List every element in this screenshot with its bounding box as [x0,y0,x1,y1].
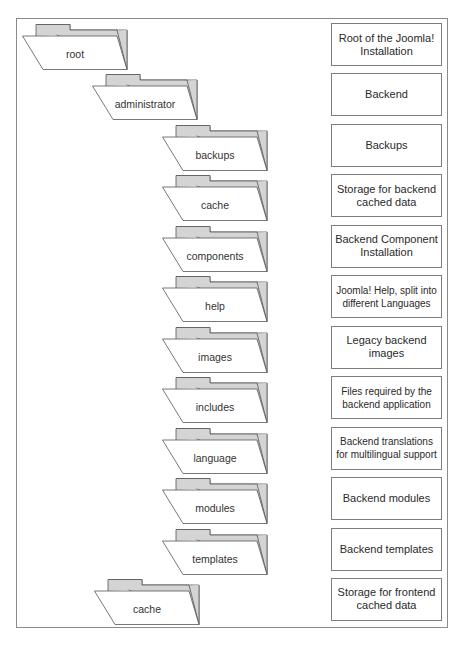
description-language: Backend translations for multilingual su… [331,427,442,470]
folder-label: cache [104,603,190,615]
folder-administrator-icon: administrator [92,74,198,120]
folder-components-icon: components [162,226,268,272]
folder-shape [162,125,268,171]
folder-label: language [172,452,258,464]
folder-cache-icon: cache [162,175,268,221]
folder-shape [162,226,268,272]
folder-shape [162,478,268,524]
folder-label: images [172,351,258,363]
description-images: Legacy backend images [331,326,442,369]
folder-shape [162,175,268,221]
folder-cache-icon: cache [94,579,200,625]
description-backups: Backups [331,124,442,167]
description-root: Root of the Joomla! Installation [331,23,442,66]
folder-label: administrator [102,98,188,110]
folder-label: includes [172,401,258,413]
folder-shape [162,529,268,575]
folder-shape [162,276,268,322]
folder-root-icon: root [22,24,128,70]
description-templates: Backend templates [331,528,442,571]
folder-label: cache [172,199,258,211]
description-help: Joomla! Help, split into different Langu… [331,275,442,318]
description-cache: Storage for backend cached data [331,174,442,217]
folder-label: components [172,250,258,262]
folder-shape [162,327,268,373]
folder-includes-icon: includes [162,377,268,423]
folder-help-icon: help [162,276,268,322]
folder-shape [162,377,268,423]
folder-templates-icon: templates [162,529,268,575]
description-components: Backend Component Installation [331,225,442,268]
folder-images-icon: images [162,327,268,373]
folder-label: backups [172,149,258,161]
folder-label: modules [172,502,258,514]
description-modules: Backend modules [331,477,442,520]
description-cache: Storage for frontend cached data [331,578,442,621]
folder-language-icon: language [162,428,268,474]
folder-modules-icon: modules [162,478,268,524]
folder-shape [162,428,268,474]
folder-shape [92,74,198,120]
folder-backups-icon: backups [162,125,268,171]
folder-label: templates [172,553,258,565]
folder-shape [22,24,128,70]
description-includes: Files required by the backend applicatio… [331,376,442,419]
description-administrator: Backend [331,73,442,116]
folder-label: help [172,300,258,312]
folder-shape [94,579,200,625]
folder-label: root [32,48,118,60]
